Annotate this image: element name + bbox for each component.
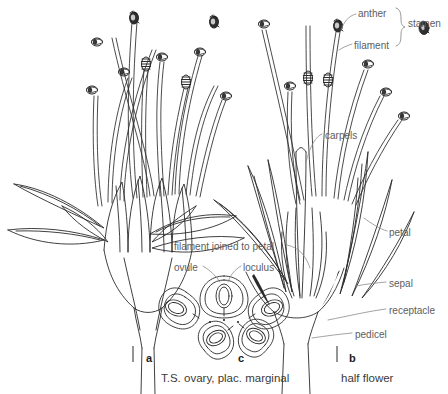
label-carpels: carpels — [325, 130, 357, 141]
botanical-figure: anther filament stamen carpels petal fil… — [0, 0, 448, 394]
figure-label-a: a — [146, 352, 152, 364]
label-loculus: loculus — [243, 262, 274, 273]
figure-label-b: b — [349, 352, 356, 364]
label-sepal: sepal — [389, 278, 413, 289]
leader-anther — [341, 14, 356, 30]
figure-b-stamens — [262, 26, 402, 205]
label-stamen: stamen — [408, 18, 441, 29]
figure-a-stamens — [93, 22, 226, 206]
caption-ts-ovary: T.S. ovary, plac. marginal — [161, 372, 289, 384]
figure-b-anthers-outline — [259, 20, 430, 120]
stamen-brace — [396, 8, 405, 46]
label-ovule: ovule — [174, 262, 198, 273]
ts-carpel-1 — [200, 276, 248, 318]
leader-petal — [364, 218, 387, 231]
figure-a-whole-flower — [8, 11, 244, 394]
leader-filament — [339, 44, 352, 50]
label-filament: filament — [354, 40, 389, 51]
figure-c-ts-ovary — [159, 276, 289, 359]
label-receptacle: receptacle — [389, 305, 435, 316]
label-anther: anther — [358, 8, 386, 19]
figure-b-pedicel — [282, 344, 310, 394]
label-pedicel: pedicel — [355, 329, 387, 340]
ts-carpel-2 — [248, 288, 289, 329]
caption-half-flower: half flower — [341, 372, 393, 384]
figure-label-c: c — [238, 352, 244, 364]
ts-carpel-4 — [198, 321, 233, 359]
label-petal: petal — [389, 227, 411, 238]
label-filament-joined-to-petal: filament joined to petal — [174, 241, 274, 252]
figure-a-anthers — [129, 11, 219, 29]
figure-letter-ticks — [133, 346, 337, 362]
ts-carpel-5 — [159, 288, 200, 329]
figure-b-anthers — [333, 19, 343, 33]
figure-b-sepal-bases — [252, 270, 340, 306]
leader-receptacle — [328, 309, 386, 320]
leader-pedicel — [312, 333, 352, 338]
figure-b-half-flower — [214, 19, 429, 394]
leader-loculus — [228, 266, 241, 282]
